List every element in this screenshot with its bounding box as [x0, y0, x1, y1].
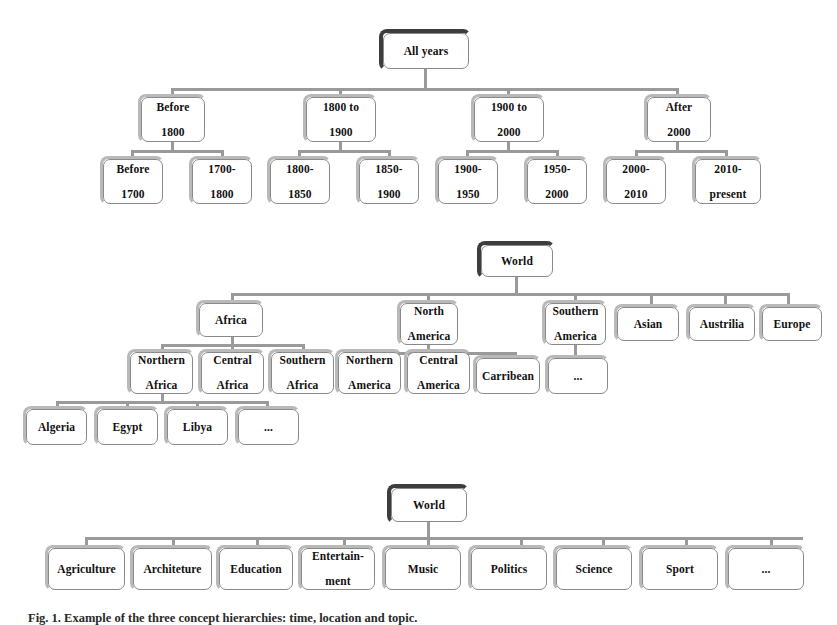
node-europe[interactable]: Europe: [762, 307, 822, 341]
node-label-line1: Politics: [489, 563, 530, 575]
node-label-line1: Sport: [664, 563, 696, 575]
node-1900-to-2000[interactable]: 1900 to2000: [474, 97, 544, 142]
node-label-line1: 1800-: [284, 163, 315, 175]
node-label-line1: 1850-: [373, 163, 404, 175]
node-world-location[interactable]: World: [481, 245, 553, 277]
node-2010-present[interactable]: 2010-present: [695, 159, 761, 204]
node-austrilia[interactable]: Austrilia: [689, 307, 755, 341]
node-label-line1: North: [406, 305, 453, 317]
node-label-line2: 1950: [452, 188, 483, 200]
node-southern-america[interactable]: SouthernAmerica: [545, 303, 606, 345]
node-label-line2: present: [708, 188, 749, 200]
node-africa[interactable]: Africa: [199, 303, 263, 337]
node-architeture[interactable]: Architeture: [133, 548, 212, 590]
node-label-line2: Africa: [211, 379, 253, 391]
node-before-1700[interactable]: Before1700: [103, 159, 163, 204]
node-label: World: [499, 255, 535, 267]
node-label-line1: Southern: [277, 354, 327, 366]
node-label-line2: America: [344, 379, 395, 391]
node-label-line2: America: [406, 330, 453, 342]
node-label-line1: 2010-: [708, 163, 749, 175]
connector-1900to2000-bus: [466, 150, 558, 153]
node-label-line2: 2010: [620, 188, 651, 200]
node-1800-1850[interactable]: 1800-1850: [270, 159, 330, 204]
node-northern-america[interactable]: NorthernAmerica: [338, 352, 401, 394]
node-label-line1: Libya: [181, 421, 214, 433]
node-label-line1: Science: [573, 563, 614, 575]
node-asian[interactable]: Asian: [617, 307, 679, 341]
node-label-line2: 1900: [321, 126, 361, 138]
node-label-line1: Algeria: [36, 421, 77, 433]
node-central-africa[interactable]: CentralAfrica: [201, 352, 264, 394]
node-label: All years: [402, 45, 451, 57]
node-label-line1: Northern: [344, 354, 395, 366]
node-label-line1: 1900 to: [489, 101, 529, 113]
node-label-line1: 2000-: [620, 163, 651, 175]
node-1900-1950[interactable]: 1900-1950: [438, 159, 498, 204]
node-label-line2: 1850: [284, 188, 315, 200]
node-label-line1: Austrilia: [698, 318, 746, 330]
connector-before1800-bus: [131, 150, 223, 153]
node-libya[interactable]: Libya: [167, 409, 228, 445]
node-label-line1: Before: [115, 163, 152, 175]
node-label-line1: Central: [415, 354, 462, 366]
connector-1800to1900-bus: [298, 150, 390, 153]
node-1700-1800[interactable]: 1700-1800: [192, 159, 252, 204]
connector-northernafrica-bus: [56, 401, 269, 404]
node-after-2000[interactable]: After2000: [647, 97, 711, 142]
node-science[interactable]: Science: [556, 548, 632, 590]
node-northern-africa[interactable]: NorthernAfrica: [130, 352, 193, 394]
node-label-line1: ...: [760, 563, 773, 575]
node-1850-1900[interactable]: 1850-1900: [359, 159, 419, 204]
node-label-line1: Asian: [632, 318, 665, 330]
node-label-line1: Architeture: [141, 563, 203, 575]
node-label-line1: 1800 to: [321, 101, 361, 113]
node-label-line1: 1700-: [206, 163, 237, 175]
node-southern-america-ellipsis[interactable]: ...: [548, 358, 608, 394]
node-northern-africa-ellipsis[interactable]: ...: [238, 409, 299, 445]
node-label-line1: 1950-: [541, 163, 572, 175]
node-label: World: [411, 499, 447, 511]
node-topic-ellipsis[interactable]: ...: [728, 548, 804, 590]
node-label-line1: Southern: [550, 305, 600, 317]
node-label-line1: After: [664, 101, 695, 113]
node-education[interactable]: Education: [219, 548, 293, 590]
node-label-line1: ...: [572, 370, 585, 382]
node-label-line1: Before: [155, 101, 192, 113]
node-carribean[interactable]: Carribean: [476, 358, 540, 394]
node-label-line2: 1900: [373, 188, 404, 200]
node-label-line1: Music: [406, 563, 441, 575]
node-agriculture[interactable]: Agriculture: [48, 548, 125, 590]
connector-level2-bus: [171, 88, 678, 91]
node-before-1800[interactable]: Before1800: [141, 97, 205, 142]
node-1950-2000[interactable]: 1950-2000: [527, 159, 587, 204]
node-world-topic[interactable]: World: [391, 488, 467, 522]
node-egypt[interactable]: Egypt: [97, 409, 158, 445]
node-label-line1: Egypt: [111, 421, 145, 433]
figure-caption: Fig. 1. Example of the three concept hie…: [28, 611, 818, 625]
node-1800-to-1900[interactable]: 1800 to1900: [306, 97, 376, 142]
node-southern-africa[interactable]: SouthernAfrica: [271, 352, 334, 394]
node-label-line1: Education: [228, 563, 283, 575]
node-politics[interactable]: Politics: [471, 548, 547, 590]
node-label-line2: 1800: [206, 188, 237, 200]
node-label-line1: Carribean: [480, 370, 536, 382]
node-label-line1: 1900-: [452, 163, 483, 175]
node-label-line1: Europe: [772, 318, 813, 330]
node-label-line1: Africa: [213, 314, 249, 326]
node-label-line2: 1800: [155, 126, 192, 138]
node-label-line2: America: [415, 379, 462, 391]
node-sport[interactable]: Sport: [642, 548, 718, 590]
node-music[interactable]: Music: [385, 548, 461, 590]
node-central-america[interactable]: CentralAmerica: [407, 352, 470, 394]
node-entertainment[interactable]: Entertain-ment: [301, 548, 375, 590]
node-2000-2010[interactable]: 2000-2010: [606, 159, 666, 204]
node-all-years[interactable]: All years: [383, 33, 469, 69]
node-label-line2: 2000: [541, 188, 572, 200]
node-label-line2: Africa: [136, 379, 187, 391]
node-north-america[interactable]: NorthAmerica: [400, 303, 458, 345]
figure-canvas: All years Before1800 1800 to1900 1900 to…: [0, 0, 837, 625]
node-algeria[interactable]: Algeria: [26, 409, 87, 445]
node-label-line1: Northern: [136, 354, 187, 366]
node-label-line1: Entertain-: [310, 550, 366, 562]
